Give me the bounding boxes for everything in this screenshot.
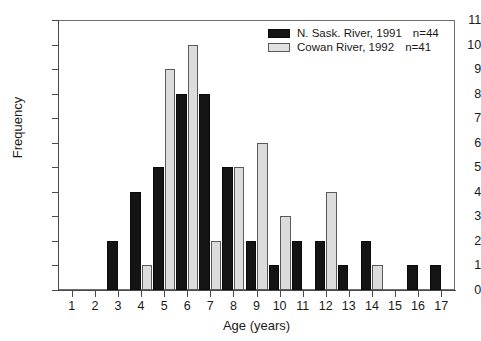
y-axis-tick-label: 11 <box>435 14 481 26</box>
y-axis-tick <box>52 241 58 242</box>
y-axis-tick <box>52 216 58 217</box>
y-axis <box>58 20 59 291</box>
y-axis-tick-label: 5 <box>435 161 481 173</box>
x-axis-tick <box>72 291 73 297</box>
legend-swatch-icon <box>268 29 290 38</box>
y-axis-tick-label: 6 <box>435 137 481 149</box>
x-axis-tick <box>233 291 234 297</box>
x-axis-tick <box>257 291 258 297</box>
x-axis-tick <box>326 291 327 297</box>
legend-swatch-icon <box>268 43 290 52</box>
plot-area <box>58 20 455 290</box>
y-axis-tick-label: 9 <box>435 63 481 75</box>
x-axis-tick <box>280 291 281 297</box>
y-axis-tick-label: 2 <box>435 235 481 247</box>
y-axis-tick-label: 10 <box>435 39 481 51</box>
y-axis-tick-label: 8 <box>435 88 481 100</box>
y-axis-tick-label: 4 <box>435 186 481 198</box>
legend-item-sample-size: n=44 <box>413 26 439 40</box>
legend-item: Cowan River, 1992 n=41 <box>268 40 439 54</box>
x-axis-tick <box>303 291 304 297</box>
x-axis-tick-label: 17 <box>421 299 461 313</box>
x-axis-tick <box>349 291 350 297</box>
y-axis-tick-label: 3 <box>435 210 481 222</box>
y-axis-tick <box>52 20 58 21</box>
legend: N. Sask. River, 1991 n=44 Cowan River, 1… <box>268 26 439 54</box>
y-axis-tick <box>52 290 58 291</box>
chart-figure: 01234567891011 1234567891011121314151617… <box>0 0 481 341</box>
legend-item-label: N. Sask. River, 1991 <box>297 26 402 40</box>
y-axis-tick <box>52 143 58 144</box>
x-axis-tick <box>95 291 96 297</box>
y-axis-tick <box>52 94 58 95</box>
x-axis-tick <box>441 291 442 297</box>
legend-item: N. Sask. River, 1991 n=44 <box>268 26 439 40</box>
x-axis-tick <box>164 291 165 297</box>
y-axis-title-text: Frequency <box>10 97 25 158</box>
y-axis-tick <box>52 118 58 119</box>
y-axis-tick-label: 1 <box>435 259 481 271</box>
legend-item-label: Cowan River, 1992 <box>297 40 394 54</box>
y-axis-tick <box>52 69 58 70</box>
legend-item-sample-size: n=41 <box>405 40 431 54</box>
y-axis-tick <box>52 167 58 168</box>
x-axis-tick <box>372 291 373 297</box>
x-axis-title: Age (years) <box>58 318 455 333</box>
x-axis-title-text: Age (years) <box>223 318 290 333</box>
x-axis-tick <box>187 291 188 297</box>
x-axis-tick <box>418 291 419 297</box>
x-axis-tick <box>395 291 396 297</box>
y-axis-title: Frequency <box>10 48 25 208</box>
y-axis-tick <box>52 192 58 193</box>
y-axis-tick <box>52 45 58 46</box>
x-axis-tick <box>118 291 119 297</box>
x-axis-tick <box>210 291 211 297</box>
y-axis-tick <box>52 265 58 266</box>
y-axis-tick-label: 7 <box>435 112 481 124</box>
x-axis-tick <box>141 291 142 297</box>
